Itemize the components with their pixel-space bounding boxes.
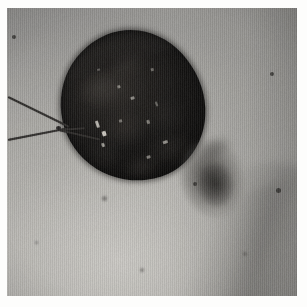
photograph-plate: [7, 8, 297, 296]
photo-caption: Clinical photograph of skin showing a la…: [0, 0, 1, 1]
photograph-frame: Clinical photograph of skin showing a la…: [0, 0, 307, 307]
photo-vignette: [7, 8, 297, 296]
